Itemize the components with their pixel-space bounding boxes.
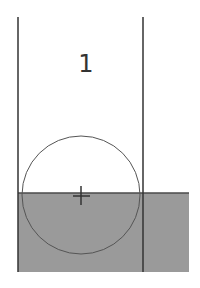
diagram-canvas [0, 0, 200, 288]
region-label: 1 [78, 50, 94, 78]
shaded-region [18, 193, 189, 272]
